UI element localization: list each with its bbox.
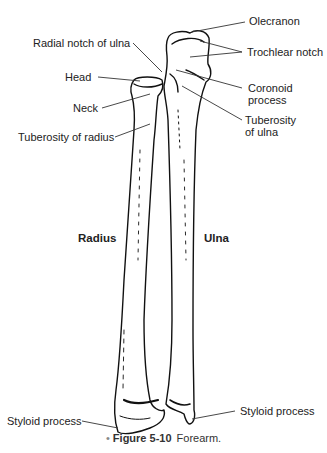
- label-head: Head: [65, 71, 91, 83]
- label-styloid-process-ulna: Styloid process: [240, 405, 315, 417]
- caption-text: Forearm.: [177, 432, 222, 444]
- label-styloid-process-radius: Styloid process: [7, 415, 82, 427]
- label-radial-notch-of-ulna: Radial notch of ulna: [33, 37, 130, 49]
- label-coronoid-process-line1: Coronoid: [248, 82, 293, 94]
- label-tuberosity-of-ulna-line2: of ulna: [245, 126, 278, 138]
- label-coronoid-process-line2: process: [248, 94, 287, 106]
- label-trochlear-notch: Trochlear notch: [247, 46, 323, 58]
- label-neck: Neck: [73, 102, 98, 114]
- ulna-bone: [164, 31, 211, 424]
- label-radius: Radius: [78, 232, 116, 244]
- radius-bone: [115, 77, 165, 434]
- label-tuberosity-of-radius: Tuberosity of radius: [18, 131, 114, 143]
- forearm-illustration: [0, 0, 327, 453]
- caption-bullet: •: [106, 432, 110, 444]
- label-tuberosity-of-ulna-line1: Tuberosity: [245, 114, 296, 126]
- label-ulna: Ulna: [204, 232, 229, 244]
- figure-caption: •Figure 5-10Forearm.: [106, 432, 221, 444]
- label-olecranon: Olecranon: [249, 15, 300, 27]
- figure-number: Figure 5-10: [113, 432, 172, 444]
